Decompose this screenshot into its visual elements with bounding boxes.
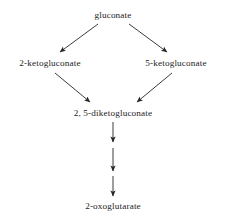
- pathway-diagram: gluconate 2-ketogluconate 5-ketogluconat…: [0, 0, 227, 221]
- edge-5-ketogluconate-to-diketogluconate: [137, 73, 172, 102]
- edge-2-ketogluconate-to-diketogluconate: [55, 73, 90, 102]
- node-2-5-diketogluconate: 2, 5-diketogluconate: [74, 108, 153, 119]
- edge-gluconate-to-2-ketogluconate: [60, 24, 98, 52]
- node-gluconate: gluconate: [94, 10, 131, 21]
- node-5-ketogluconate: 5-ketogluconate: [145, 58, 206, 69]
- node-2-ketogluconate: 2-ketogluconate: [19, 58, 80, 69]
- node-2-oxoglutarate: 2-oxoglutarate: [85, 201, 141, 212]
- edge-gluconate-to-5-ketogluconate: [129, 24, 167, 52]
